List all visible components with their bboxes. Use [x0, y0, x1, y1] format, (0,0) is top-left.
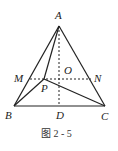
- label-N: N: [93, 72, 102, 84]
- label-C: C: [101, 110, 109, 122]
- label-A: A: [54, 9, 62, 21]
- geometry-figure: A B C D M N O P 图 2 - 5: [0, 0, 118, 151]
- label-O: O: [64, 64, 72, 76]
- segment-AB: [14, 26, 59, 106]
- label-M: M: [13, 72, 24, 84]
- figure-caption: 图 2 - 5: [41, 128, 72, 139]
- triangle-diagram: A B C D M N O P 图 2 - 5: [0, 0, 118, 151]
- label-D: D: [55, 109, 64, 121]
- segment-AP: [44, 26, 59, 79]
- label-B: B: [5, 109, 12, 121]
- label-P: P: [40, 82, 48, 94]
